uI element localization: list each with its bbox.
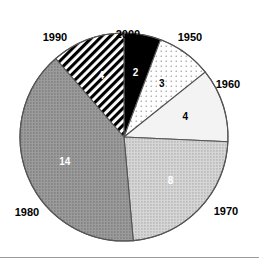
slice-value-2000: 2	[133, 67, 139, 78]
category-label-1990: 1990	[43, 31, 67, 43]
slice-value-1960: 4	[183, 111, 189, 122]
category-label-1950: 1950	[178, 31, 202, 43]
slice-value-1990: 4	[99, 70, 105, 81]
pie-slice-1970[interactable]	[124, 137, 228, 241]
slice-value-1970: 8	[168, 175, 174, 186]
category-label-1960: 1960	[216, 78, 240, 90]
pie-chart-svg: 2348144 200019501960197019801990	[0, 0, 259, 271]
slice-value-1950: 3	[159, 78, 165, 89]
slice-value-1980: 14	[59, 156, 71, 167]
bottom-divider	[0, 257, 259, 258]
category-label-1970: 1970	[214, 205, 238, 217]
pie-slices	[20, 33, 228, 241]
category-label-1980: 1980	[15, 206, 39, 218]
category-label-2000: 2000	[116, 28, 140, 40]
pie-chart-figure: 2348144 200019501960197019801990	[0, 0, 259, 271]
